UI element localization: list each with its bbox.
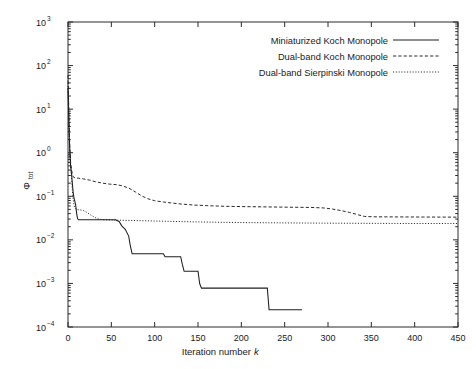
series-line-0 bbox=[68, 88, 302, 309]
x-tick-label: 350 bbox=[364, 333, 379, 343]
y-tick-exponent: 1 bbox=[47, 102, 51, 109]
y-axis-title-main: Φ bbox=[21, 182, 32, 190]
series-line-2 bbox=[68, 83, 458, 224]
y-axis-title-subscript: tot bbox=[27, 172, 34, 179]
y-tick-exponent: 0 bbox=[47, 145, 51, 152]
y-tick-label: 10 bbox=[36, 279, 46, 289]
legend-label-1: Dual-band Koch Monopole bbox=[278, 52, 388, 62]
y-tick-exponent: −2 bbox=[47, 232, 55, 239]
y-tick-label: 10 bbox=[36, 105, 46, 115]
y-axis-ticks: 10−410−310−210−1100101102103 bbox=[36, 15, 458, 333]
y-tick-label: 10 bbox=[36, 235, 46, 245]
legend: Miniaturized Koch MonopoleDual-band Koch… bbox=[259, 36, 439, 78]
x-axis-title-main: Iteration number bbox=[182, 346, 251, 357]
y-tick-exponent: 2 bbox=[47, 58, 51, 65]
series-group bbox=[68, 75, 458, 309]
x-axis-title: Iteration number k bbox=[182, 346, 260, 357]
figure-container: 10−410−310−210−1100101102103 05010015020… bbox=[0, 0, 476, 369]
x-tick-label: 400 bbox=[407, 333, 422, 343]
y-axis-title: Φ tot bbox=[21, 172, 34, 190]
x-tick-label: 0 bbox=[65, 333, 70, 343]
legend-label-0: Miniaturized Koch Monopole bbox=[271, 36, 388, 46]
series-line-1 bbox=[68, 75, 458, 217]
convergence-line-chart: 10−410−310−210−1100101102103 05010015020… bbox=[0, 0, 476, 369]
x-tick-label: 300 bbox=[320, 333, 335, 343]
x-tick-label: 100 bbox=[147, 333, 162, 343]
y-tick-label: 10 bbox=[36, 18, 46, 28]
x-axis-title-italic: k bbox=[254, 346, 260, 357]
y-tick-exponent: −4 bbox=[47, 320, 55, 327]
y-tick-exponent: −1 bbox=[47, 189, 55, 196]
x-tick-label: 150 bbox=[190, 333, 205, 343]
y-tick-label: 10 bbox=[36, 61, 46, 71]
y-tick-exponent: 3 bbox=[47, 15, 51, 22]
y-tick-exponent: −3 bbox=[47, 276, 55, 283]
y-tick-label: 10 bbox=[36, 192, 46, 202]
x-tick-label: 50 bbox=[106, 333, 116, 343]
x-tick-label: 200 bbox=[234, 333, 249, 343]
y-tick-label: 10 bbox=[36, 148, 46, 158]
legend-label-2: Dual-band Sierpinski Monopole bbox=[259, 68, 388, 78]
x-tick-label: 450 bbox=[450, 333, 465, 343]
x-tick-label: 250 bbox=[277, 333, 292, 343]
y-tick-label: 10 bbox=[36, 323, 46, 333]
